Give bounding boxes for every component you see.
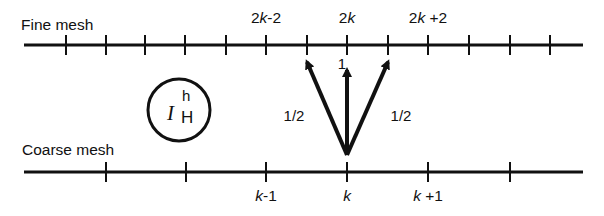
tick-label: 2k [339, 10, 355, 26]
operator-superscript-h: h [182, 87, 190, 104]
operator-subscript-H: H [181, 108, 193, 128]
tick-label: 2k +2 [409, 10, 447, 26]
tick-label: k +1 [413, 188, 443, 204]
tick-label: 2k-2 [251, 10, 281, 26]
weight-label: 1 [338, 56, 346, 71]
interpolation-operator-symbol: I h H [146, 77, 212, 143]
fine-mesh-title: Fine mesh [21, 17, 93, 33]
weight-label: 1/2 [391, 108, 412, 123]
operator-I: I [167, 101, 174, 126]
tick-label: k [343, 188, 351, 204]
tick-label: k-1 [255, 188, 277, 204]
interpolation-arrows [307, 62, 388, 155]
weight-label: 1/2 [284, 108, 305, 123]
coarse-mesh-title: Coarse mesh [22, 142, 114, 158]
arrow-1-2 [347, 62, 388, 155]
arrow-1-2 [307, 62, 347, 155]
